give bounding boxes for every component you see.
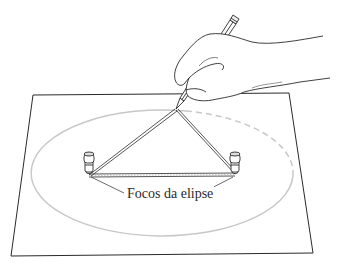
ellipse-construction-diagram — [0, 0, 344, 269]
hand-icon — [175, 34, 330, 101]
paper-sheet — [11, 93, 313, 256]
foci-label: Focos da elipse — [126, 186, 214, 202]
right-pin-icon — [230, 152, 240, 174]
left-pin-icon — [84, 152, 94, 174]
